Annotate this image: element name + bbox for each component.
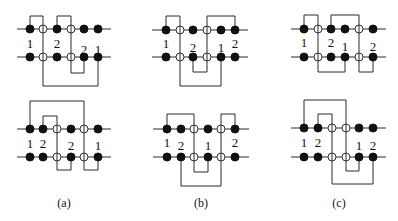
node-label: 1 — [301, 35, 308, 50]
filled-node-icon — [231, 53, 239, 61]
node-label: 1 — [95, 138, 102, 153]
node-label: 2 — [328, 35, 335, 50]
node-label: 2 — [370, 138, 377, 153]
filled-node-icon — [26, 25, 34, 33]
filled-node-icon — [300, 124, 308, 132]
filled-node-icon — [204, 153, 212, 161]
node-label: 2 — [81, 42, 88, 57]
circuit-diagram-figure: 122112211212121212121212 (a) (b) (c) — [0, 0, 398, 221]
filled-node-icon — [67, 125, 75, 133]
filled-node-icon — [189, 26, 197, 34]
node-label: 2 — [40, 136, 47, 151]
filled-node-icon — [231, 125, 239, 133]
filled-node-icon — [177, 153, 185, 161]
node-label: 1 — [301, 135, 308, 150]
filled-node-icon — [314, 124, 322, 132]
filled-node-icon — [94, 25, 102, 33]
node-label: 2 — [232, 36, 239, 51]
panel-a-bottom: 1221 — [17, 101, 111, 170]
node-label: 1 — [163, 36, 170, 51]
filled-node-icon — [162, 53, 170, 61]
caption-c: (c) — [332, 196, 345, 210]
node-label: 2 — [232, 135, 239, 150]
filled-node-icon — [231, 153, 239, 161]
filled-node-icon — [39, 125, 47, 133]
filled-node-icon — [355, 153, 363, 161]
filled-node-icon — [217, 26, 225, 34]
filled-node-icon — [80, 25, 88, 33]
filled-node-icon — [341, 53, 349, 61]
caption-a: (a) — [57, 196, 70, 210]
node-label: 2 — [54, 36, 61, 51]
diagram-panels: 122112211212121212121212 — [17, 15, 386, 186]
node-label: 1 — [342, 39, 349, 54]
filled-node-icon — [26, 53, 34, 61]
node-label: 1 — [205, 138, 212, 153]
filled-node-icon — [300, 53, 308, 61]
node-label: 2 — [190, 40, 197, 55]
filled-node-icon — [53, 53, 61, 61]
filled-node-icon — [327, 25, 335, 33]
filled-node-icon — [67, 153, 75, 161]
panel-b-bottom: 1212 — [153, 114, 249, 186]
filled-node-icon — [204, 125, 212, 133]
node-label: 2 — [370, 39, 377, 54]
panel-captions: (a) (b) (c) — [57, 196, 345, 210]
node-label: 1 — [27, 36, 34, 51]
filled-node-icon — [300, 25, 308, 33]
filled-node-icon — [26, 153, 34, 161]
filled-node-icon — [53, 25, 61, 33]
caption-b: (b) — [194, 196, 208, 210]
filled-node-icon — [163, 153, 171, 161]
panel-b-top: 1212 — [152, 16, 248, 86]
filled-node-icon — [163, 125, 171, 133]
filled-node-icon — [26, 125, 34, 133]
filled-node-icon — [39, 153, 47, 161]
node-label: 2 — [315, 135, 322, 150]
filled-node-icon — [341, 25, 349, 33]
filled-node-icon — [327, 53, 335, 61]
node-label: 1 — [95, 42, 102, 57]
filled-node-icon — [314, 153, 322, 161]
node-label: 1 — [27, 136, 34, 151]
node-label: 1 — [218, 40, 225, 55]
filled-node-icon — [94, 153, 102, 161]
node-label: 1 — [356, 138, 363, 153]
filled-node-icon — [177, 125, 185, 133]
filled-node-icon — [300, 153, 308, 161]
node-label: 2 — [68, 138, 75, 153]
filled-node-icon — [369, 153, 377, 161]
node-label: 1 — [164, 135, 171, 150]
panel-a-top: 1221 — [17, 16, 111, 86]
filled-node-icon — [355, 124, 363, 132]
panel-c-bottom: 1212 — [291, 100, 386, 184]
filled-node-icon — [162, 26, 170, 34]
filled-node-icon — [369, 124, 377, 132]
filled-node-icon — [369, 53, 377, 61]
node-label: 2 — [178, 138, 185, 153]
filled-node-icon — [369, 25, 377, 33]
filled-node-icon — [231, 26, 239, 34]
filled-node-icon — [94, 125, 102, 133]
panel-c-top: 1212 — [291, 15, 386, 72]
